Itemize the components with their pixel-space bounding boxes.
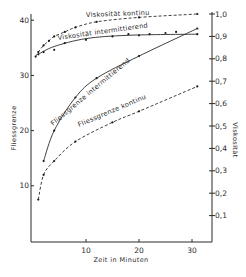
data-point-viskositaet-kontinu bbox=[74, 26, 76, 28]
x-axis-label: Zeit in Minuten bbox=[93, 256, 148, 264]
x-tick-label: 30 bbox=[187, 246, 197, 255]
data-point-viskositaet-intermittierend bbox=[111, 35, 113, 37]
left-y-tick-label: 10 bbox=[19, 181, 29, 190]
right-y-tick-label: 0,8 bbox=[215, 54, 227, 63]
left-y-tick-label: 20 bbox=[19, 126, 29, 135]
data-point-viskositaet-intermittierend bbox=[138, 34, 140, 36]
data-point-viskositaet-kontinu bbox=[43, 44, 45, 46]
curve-label-viskositaet-intermittierend: Viskosität intermittierend bbox=[57, 21, 148, 42]
data-point-fliessgrenze-intermittierend bbox=[53, 130, 55, 132]
right-y-tick-label: 0,2 bbox=[215, 189, 227, 198]
series-line-fliessgrenze-intermittierend bbox=[44, 29, 198, 162]
left-axis-label: Fliessgrenze bbox=[10, 105, 18, 150]
right-y-tick-label: 0,6 bbox=[215, 99, 227, 108]
data-point-viskositaet-intermittierend bbox=[43, 51, 45, 53]
left-y-tick-label: 30 bbox=[19, 71, 29, 80]
right-y-tick-label: 0,4 bbox=[215, 144, 227, 153]
data-point-viskositaet-intermittierend bbox=[149, 33, 151, 35]
data-point-fliessgrenze-intermittierend bbox=[96, 77, 98, 79]
chart: 102030102030400,10,20,30,40,50,60,70,80,… bbox=[0, 0, 246, 277]
ticks: 102030102030400,10,20,30,40,50,60,70,80,… bbox=[19, 10, 227, 255]
right-y-tick-label: 1,0 bbox=[215, 10, 227, 19]
data-point-fliessgrenze-kontinu bbox=[43, 174, 45, 176]
left-y-tick-label: 40 bbox=[19, 16, 29, 25]
data-point-viskositaet-kontinu bbox=[96, 21, 98, 23]
data-point-viskositaet-kontinu bbox=[48, 40, 50, 42]
right-y-tick-label: 0,3 bbox=[215, 166, 227, 175]
right-y-tick-label: 0,5 bbox=[215, 122, 227, 131]
data-point-viskositaet-kontinu bbox=[196, 13, 198, 15]
data-point-fliessgrenze-intermittierend bbox=[138, 55, 140, 57]
data-point-viskositaet-intermittierend bbox=[37, 53, 39, 55]
data-point-viskositaet-intermittierend bbox=[64, 42, 66, 44]
data-point-viskositaet-intermittierend bbox=[53, 49, 55, 51]
data-point-viskositaet-intermittierend bbox=[85, 39, 87, 41]
data-point-viskositaet-kontinu bbox=[53, 35, 55, 37]
data-point-fliessgrenze-kontinu bbox=[138, 110, 140, 112]
data-point-fliessgrenze-kontinu bbox=[196, 85, 198, 87]
data-point-viskositaet-kontinu bbox=[35, 56, 37, 58]
data-point-fliessgrenze-kontinu bbox=[37, 199, 39, 201]
data-point-viskositaet-intermittierend bbox=[127, 33, 129, 35]
data-point-fliessgrenze-intermittierend bbox=[43, 160, 45, 162]
x-tick-label: 20 bbox=[134, 246, 144, 255]
data-point-fliessgrenze-kontinu bbox=[74, 141, 76, 143]
data-point-fliessgrenze-kontinu bbox=[111, 121, 113, 123]
data-point-fliessgrenze-intermittierend bbox=[196, 27, 198, 29]
right-axis-label: Viskosität bbox=[231, 122, 239, 157]
axes bbox=[31, 12, 212, 242]
data-point-viskositaet-intermittierend bbox=[175, 31, 177, 33]
right-y-tick-label: 0,9 bbox=[215, 32, 227, 41]
data-point-viskositaet-intermittierend bbox=[196, 33, 198, 35]
x-tick-label: 10 bbox=[81, 246, 91, 255]
right-y-tick-label: 0,1 bbox=[215, 211, 227, 220]
data-point-viskositaet-kontinu bbox=[37, 51, 39, 53]
right-y-tick-label: 0,7 bbox=[215, 77, 227, 86]
data-point-viskositaet-intermittierend bbox=[164, 32, 166, 34]
data-point-fliessgrenze-kontinu bbox=[53, 160, 55, 162]
